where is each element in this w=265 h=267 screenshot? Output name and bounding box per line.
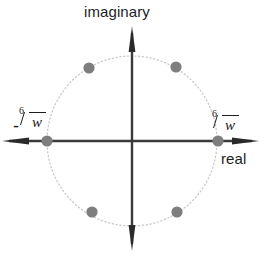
radical-sign-icon: w — [22, 111, 42, 130]
root-point — [212, 135, 223, 146]
root-point — [170, 61, 181, 72]
real-axis-arrow-right — [232, 137, 259, 144]
imaginary-axis-label: imaginary — [84, 4, 150, 19]
radical-sign-icon: w — [215, 114, 235, 133]
root-point — [41, 135, 52, 146]
minus-sign: - — [13, 117, 19, 135]
sixth-root-positive-label: 6 w — [212, 104, 235, 133]
radical-index: 6 — [19, 106, 24, 116]
complex-plane-figure: imaginary real 6 w - 6 w — [0, 0, 265, 267]
imaginary-axis-arrow-up — [129, 26, 136, 52]
real-axis-label: real — [221, 151, 246, 166]
root-point — [86, 206, 97, 217]
root-point — [83, 62, 94, 73]
root-point — [171, 206, 182, 217]
real-axis-arrow-left — [2, 137, 29, 144]
imaginary-axis-arrow-down — [129, 225, 136, 251]
sixth-root-negative-label: - 6 w — [13, 106, 42, 135]
radical-index: 6 — [212, 109, 217, 119]
